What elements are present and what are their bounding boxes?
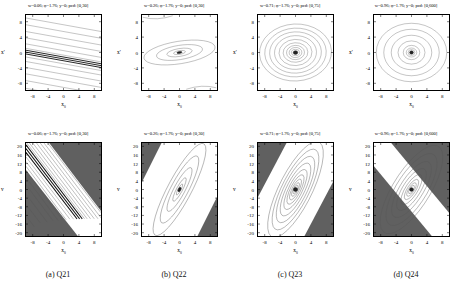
xaxis-label-top-c: x0 [293,102,298,110]
xtick-label-top-a-4: 8 [93,94,96,99]
yaxis-label-top-d: x' [349,50,353,55]
ytick-label-bottom-c-10: -20 [241,230,254,235]
ytick-label-bottom-c-1: 16 [241,152,254,157]
xtick-label-top-b-2: 0 [178,94,181,99]
ytick-label-top-d-0: 8 [357,19,370,24]
ytick-label-bottom-d-3: 8 [357,170,370,175]
ytick-label-bottom-b-10: -20 [125,230,138,235]
yaxis-label-top-b: x' [117,50,121,55]
xtick-label-bottom-b-4: 8 [209,240,212,245]
ytick-label-bottom-a-6: -4 [9,196,22,201]
caption-c: (c) Q23 [232,270,348,286]
caption-d: (d) Q24 [348,270,464,286]
ytick-label-bottom-c-6: -4 [241,196,254,201]
xtick-label-top-b-4: 8 [209,94,212,99]
xtick-label-top-d-2: 0 [410,94,413,99]
ytick-label-bottom-a-9: -16 [9,222,22,227]
ytick-label-bottom-d-2: 12 [357,161,370,166]
xtick-label-bottom-c-4: 8 [325,240,328,245]
yaxis-label-bottom-b: v [117,187,120,192]
xtick-label-bottom-c-3: 4 [310,240,313,245]
ytick-label-top-c-4: -8 [241,81,254,86]
panel-b-top-title: w=0.26; φ=1.76; y=0; pcd: [0,30] [116,3,232,8]
ytick-label-bottom-d-1: 16 [357,152,370,157]
xtick-label-bottom-d-1: -4 [394,240,398,245]
xtick-label-top-c-0: -8 [263,94,267,99]
ytick-label-bottom-d-0: 20 [357,144,370,149]
xtick-label-bottom-d-4: 8 [441,240,444,245]
ytick-label-bottom-a-10: -20 [9,230,22,235]
xtick-label-bottom-a-2: 0 [62,240,65,245]
ytick-label-top-d-4: -8 [357,81,370,86]
ytick-label-bottom-b-0: 20 [125,144,138,149]
ytick-label-bottom-a-0: 20 [9,144,22,149]
ytick-label-bottom-c-8: -12 [241,213,254,218]
ytick-label-top-b-0: 8 [125,19,138,24]
ytick-label-top-c-1: 4 [241,35,254,40]
xtick-label-top-a-3: 4 [78,94,81,99]
xaxis-label-bottom-a: x0 [61,248,66,256]
xtick-label-bottom-d-0: -8 [379,240,383,245]
panel-b-top-plot [141,14,218,91]
xaxis-label-bottom-b: x0 [177,248,182,256]
xtick-label-top-d-3: 4 [426,94,429,99]
panel-d-top-contours [374,15,449,90]
ytick-label-bottom-b-8: -12 [125,213,138,218]
ytick-label-top-d-1: 4 [357,35,370,40]
ytick-label-bottom-c-9: -16 [241,222,254,227]
ytick-label-top-b-3: -4 [125,65,138,70]
ytick-label-bottom-d-9: -16 [357,222,370,227]
ytick-label-bottom-a-8: -12 [9,213,22,218]
ytick-label-bottom-c-5: 0 [241,187,254,192]
ytick-label-bottom-b-2: 12 [125,161,138,166]
ytick-label-top-b-1: 4 [125,35,138,40]
yaxis-label-bottom-d: v [349,187,352,192]
panel-a-top-plot [25,14,102,91]
panel-c-top-title: w=0.71; φ=1.76; y=0; pcd: [0,75] [232,3,348,8]
xtick-label-top-d-1: -4 [394,94,398,99]
ytick-label-top-a-4: -8 [9,81,22,86]
panel-b-top-contours [142,15,217,90]
panel-d-bottom-title: w=0.96; φ=1.76; y=0; pcd: [0,600] [348,131,464,136]
xtick-label-bottom-c-1: -4 [278,240,282,245]
ytick-label-bottom-b-6: -4 [125,196,138,201]
panel-a-bottom-plot [25,142,102,237]
yaxis-label-top-a: x' [1,50,5,55]
xaxis-label-top-a: x0 [61,102,66,110]
ytick-label-bottom-d-4: 4 [357,178,370,183]
ytick-label-bottom-c-7: -8 [241,204,254,209]
yaxis-label-top-c: x' [233,50,237,55]
panel-d-top-plot [373,14,450,91]
ytick-label-bottom-c-2: 12 [241,161,254,166]
ytick-label-bottom-d-6: -4 [357,196,370,201]
panel-b-bottom-title: w=0.26; φ=1.76; y=0; pcd: [0,30] [116,131,232,136]
panel-b-bottom-contours [142,143,217,236]
xtick-label-top-a-2: 0 [62,94,65,99]
ytick-label-bottom-b-7: -8 [125,204,138,209]
xtick-label-top-a-1: -4 [46,94,50,99]
ytick-label-bottom-b-3: 8 [125,170,138,175]
xtick-label-bottom-b-3: 4 [194,240,197,245]
ytick-label-top-a-0: 8 [9,19,22,24]
ytick-label-bottom-b-4: 4 [125,178,138,183]
ytick-label-top-b-2: 0 [125,50,138,55]
xtick-label-top-c-3: 4 [310,94,313,99]
ytick-label-bottom-d-5: 0 [357,187,370,192]
ytick-label-bottom-d-7: -8 [357,204,370,209]
xtick-label-top-d-0: -8 [379,94,383,99]
xtick-label-bottom-b-1: -4 [162,240,166,245]
ytick-label-bottom-a-2: 12 [9,161,22,166]
ytick-label-bottom-a-4: 4 [9,178,22,183]
xtick-label-bottom-a-3: 4 [78,240,81,245]
ytick-label-top-d-2: 0 [357,50,370,55]
ytick-label-bottom-d-8: -12 [357,213,370,218]
ytick-label-bottom-c-0: 20 [241,144,254,149]
ytick-label-bottom-d-10: -20 [357,230,370,235]
ytick-label-top-c-2: 0 [241,50,254,55]
ytick-label-bottom-b-1: 16 [125,152,138,157]
panel-c-bottom-contours [258,143,333,236]
ytick-label-bottom-b-9: -16 [125,222,138,227]
xaxis-label-bottom-c: x0 [293,248,298,256]
panel-c-bottom-plot [257,142,334,237]
xaxis-label-top-b: x0 [177,102,182,110]
